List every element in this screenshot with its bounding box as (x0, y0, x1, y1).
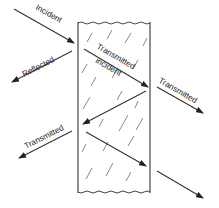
transmitted-bottom-ray-arrow (157, 171, 203, 198)
label-incident: Incident (34, 3, 64, 25)
internal-reflected-ray-arrow (83, 91, 146, 124)
slab-transmission-diagram: Incident Reflected Transmitted incident … (0, 0, 219, 208)
slab-top-broken-edge (78, 22, 150, 24)
slab-bottom-broken-edge (78, 191, 150, 193)
label-reflected: Reflected (21, 55, 56, 79)
label-transmitted-left: Transmitted (23, 123, 66, 151)
ray-arrows (12, 9, 203, 198)
internal-second-ray-arrow (86, 132, 146, 166)
